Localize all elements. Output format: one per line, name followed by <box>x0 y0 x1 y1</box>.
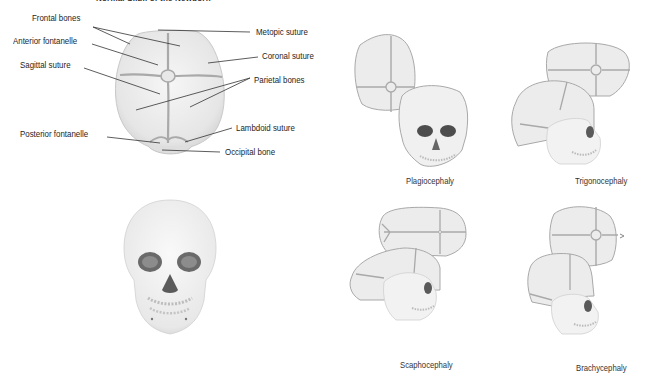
skull-front-view <box>124 200 216 334</box>
label-frontal-bones: Frontal bones <box>32 13 80 23</box>
diagram-artwork <box>0 0 647 386</box>
label-parietal-bones: Parietal bones <box>254 75 305 85</box>
label-coronal-suture: Coronal suture <box>262 51 314 61</box>
label-occipital-bone: Occipital bone <box>225 147 275 157</box>
trigonocephaly-illustration <box>512 43 630 164</box>
scaphocephaly-illustration <box>350 207 466 320</box>
caption-trigonocephaly: Trigonocephaly <box>575 176 627 186</box>
plagiocephaly-illustration <box>355 35 468 167</box>
label-sagittal-suture: Sagittal suture <box>20 60 71 70</box>
caption-plagiocephaly: Plagiocephaly <box>406 176 454 186</box>
label-posterior-fontanelle: Posterior fontanelle <box>20 129 88 139</box>
caption-scaphocephaly: Scaphocephaly <box>400 360 453 370</box>
label-metopic-suture: Metopic suture <box>256 27 308 37</box>
label-anterior-fontanelle: Anterior fontanelle <box>13 36 77 46</box>
brachycephaly-illustration <box>528 207 624 334</box>
label-lambdoid-suture: Lambdoid suture <box>236 123 295 133</box>
caption-brachycephaly: Brachycephaly <box>576 363 627 373</box>
